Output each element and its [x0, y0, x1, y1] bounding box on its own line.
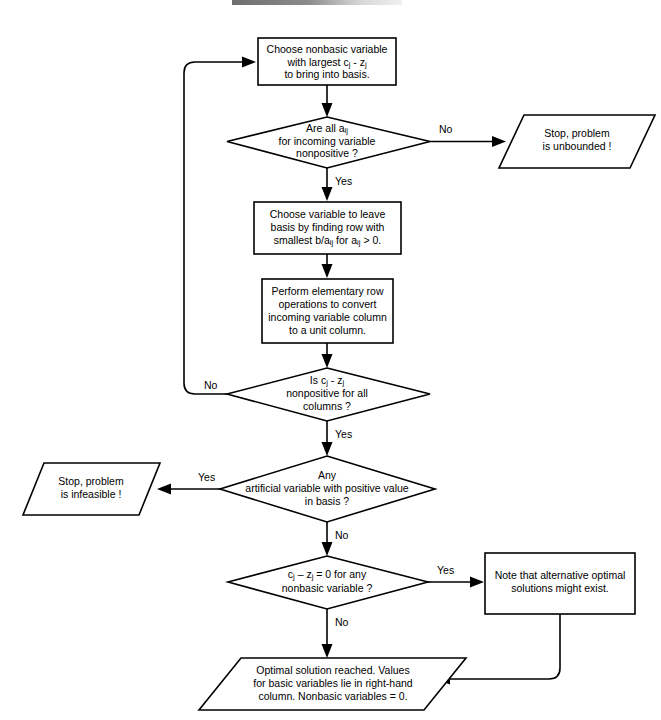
connector-leaving-to-rowops: [322, 254, 333, 278]
node-alternative-optima-line-1: Note that alternative optimal: [495, 569, 626, 581]
connector-decision1-to-leaving: [322, 168, 333, 201]
node-stop-unbounded-line-1: Stop, problem: [544, 127, 610, 139]
flowchart-svg: Choose nonbasic variable with largest cj…: [0, 0, 661, 720]
flowchart-canvas: Choose nonbasic variable with largest cj…: [0, 0, 661, 720]
connector-decision4-to-optimal: [322, 609, 333, 658]
node-choose-entering-line-3: to bring into basis.: [284, 68, 369, 80]
node-optimal-solution-line-3: column. Nonbasic variables = 0.: [258, 690, 407, 702]
connector-entering-to-decision1: [322, 85, 333, 117]
node-artificial-line-1: Any: [318, 469, 337, 481]
node-all-aij-line-3: nonpositive ?: [296, 147, 358, 159]
connector-decision3-to-infeasible: [157, 484, 227, 495]
connector-decision2-to-decision3: [322, 421, 333, 456]
node-stop-unbounded[interactable]: Stop, problem is unbounded !: [499, 115, 655, 168]
node-row-operations-line-3: incoming variable column: [268, 311, 387, 323]
connector-alternative-to-optimal: [436, 614, 560, 685]
node-cj-zj-nonpositive-line-2: nonpositive for all: [286, 387, 368, 399]
node-choose-leaving[interactable]: Choose variable to leave basis by findin…: [254, 202, 401, 254]
node-optimal-solution-line-1: Optimal solution reached. Values: [256, 664, 409, 676]
node-alternative-optima[interactable]: Note that alternative optimal solutions …: [485, 553, 635, 614]
connector-decision3-to-decision4: [322, 522, 333, 556]
node-all-aij-nonpositive[interactable]: Are all aij for incoming variable nonpos…: [227, 117, 430, 168]
branch-label-unbounded-no: No: [439, 123, 453, 135]
node-row-operations-line-1: Perform elementary row: [271, 285, 383, 297]
node-cj-zj-nonpositive-line-1: Is cj - zj: [310, 374, 345, 388]
node-choose-leaving-line-3: smallest b/aij for aij > 0.: [274, 234, 381, 248]
node-cj-zj-nonpositive[interactable]: Is cj - zj nonpositive for all columns ?: [227, 368, 430, 421]
node-choose-entering-line-1: Choose nonbasic variable: [267, 43, 388, 55]
node-choose-leaving-line-1: Choose variable to leave: [270, 208, 386, 220]
branch-label-cjzj-no: No: [204, 379, 218, 391]
node-stop-infeasible[interactable]: Stop, problem is infeasible !: [23, 463, 160, 515]
branch-label-artificial-yes: Yes: [198, 471, 215, 483]
node-choose-leaving-line-2: basis by finding row with: [271, 221, 385, 233]
node-alternative-optima-line-2: solutions might exist.: [511, 582, 608, 594]
node-stop-unbounded-line-2: is unbounded !: [543, 140, 612, 152]
node-stop-infeasible-line-1: Stop, problem: [58, 475, 124, 487]
node-cj-zj-zero-line-2: nonbasic variable ?: [282, 582, 373, 594]
node-optimal-solution[interactable]: Optimal solution reached. Values for bas…: [199, 658, 466, 710]
node-stop-infeasible-line-2: is infeasible !: [61, 488, 122, 500]
connector-decision4-to-alternative: [428, 577, 484, 588]
node-row-operations[interactable]: Perform elementary row operations to con…: [262, 279, 393, 343]
node-cj-zj-zero[interactable]: cj – zj = 0 for any nonbasic variable ?: [228, 556, 428, 609]
connector-decision1-to-unbounded: [430, 136, 506, 147]
branch-label-unbounded-yes: Yes: [335, 175, 352, 187]
branch-label-cjzj-yes: Yes: [335, 428, 352, 440]
branch-label-zero-no: No: [335, 616, 349, 628]
node-cj-zj-zero-line-1: cj – zj = 0 for any: [288, 568, 367, 582]
node-choose-entering[interactable]: Choose nonbasic variable with largest cj…: [258, 38, 396, 85]
node-row-operations-line-2: operations to convert: [278, 298, 376, 310]
branch-label-artificial-no: No: [335, 529, 349, 541]
connector-decision2-loopback: [184, 57, 256, 395]
branch-label-zero-yes: Yes: [437, 564, 454, 576]
node-optimal-solution-line-2: for basic variables lie in right-hand: [253, 677, 412, 689]
node-artificial-line-2: artificial variable with positive value: [245, 482, 409, 494]
node-artificial-in-basis[interactable]: Any artificial variable with positive va…: [220, 456, 435, 522]
connector-rowops-to-decision2: [322, 343, 333, 368]
node-all-aij-line-2: for incoming variable: [279, 134, 376, 146]
scan-artifact-bar: [232, 0, 402, 5]
node-artificial-line-3: in basis ?: [305, 495, 350, 507]
node-row-operations-line-4: to a unit column.: [289, 324, 366, 336]
node-cj-zj-nonpositive-line-3: columns ?: [303, 400, 351, 412]
